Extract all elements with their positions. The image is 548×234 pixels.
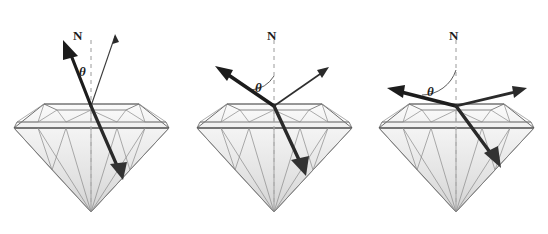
- diagram-panel-1: N θ: [0, 0, 183, 234]
- reflected-ray: [456, 86, 527, 106]
- panel-1-svg: N θ: [0, 0, 183, 234]
- diagram-panel-3: N θ: [365, 0, 548, 234]
- normal-label: N: [267, 28, 277, 43]
- angle-label: θ: [255, 80, 262, 95]
- panel-3-svg: N θ: [365, 0, 548, 234]
- reflected-ray: [274, 67, 329, 106]
- incident-ray: [387, 85, 456, 106]
- incident-ray: [63, 40, 91, 106]
- incident-ray: [215, 66, 274, 106]
- panel-2-svg: N θ: [183, 0, 366, 234]
- reflected-ray: [91, 34, 119, 106]
- normal-label: N: [449, 28, 459, 43]
- angle-label: θ: [79, 64, 86, 79]
- diagram-panel-2: N θ: [183, 0, 366, 234]
- normal-label: N: [73, 28, 83, 43]
- angle-label: θ: [427, 84, 434, 99]
- figure-canvas: N θ: [0, 0, 548, 234]
